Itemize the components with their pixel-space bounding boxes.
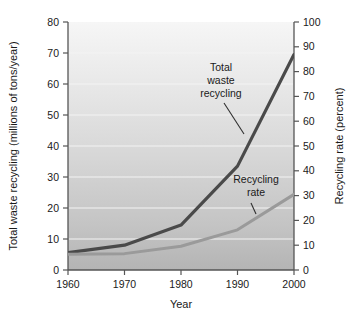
y-axis-left-tick-label: 10 xyxy=(47,233,59,245)
x-axis-tick-label: 1980 xyxy=(169,278,193,290)
y-axis-right-tick-label: 60 xyxy=(303,115,315,127)
y-axis-left-tick-label: 70 xyxy=(47,47,59,59)
y-axis-right-tick-label: 90 xyxy=(303,40,315,52)
y-axis-right: 0102030405060708090100 xyxy=(294,16,321,276)
y-axis-right-tick-label: 80 xyxy=(303,65,315,77)
y-axis-right-tick-label: 20 xyxy=(303,214,315,226)
y-axis-left-tick-label: 0 xyxy=(53,264,59,276)
y-axis-left-tick-label: 80 xyxy=(47,16,59,28)
y-axis-right-tick-label: 50 xyxy=(303,140,315,152)
annotation-recycling-rate-line1: Recycling xyxy=(233,173,279,185)
y-axis-right-tick-label: 100 xyxy=(303,16,321,28)
chart-figure: 01020304050607080 0102030405060708090100… xyxy=(0,0,356,320)
y-axis-left-tick-label: 60 xyxy=(47,78,59,90)
y-axis-left-title: Total waste recycling (millions of tons/… xyxy=(7,41,19,250)
x-axis-tick-label: 2000 xyxy=(282,278,306,290)
annotation-recycling-rate-line2: rate xyxy=(247,186,265,198)
y-axis-right-tick-label: 70 xyxy=(303,90,315,102)
y-axis-right-tick-label: 40 xyxy=(303,164,315,176)
y-axis-right-tick-label: 30 xyxy=(303,189,315,201)
y-axis-left-tick-label: 50 xyxy=(47,109,59,121)
recycling-line-chart: 01020304050607080 0102030405060708090100… xyxy=(0,0,356,320)
y-axis-right-tick-label: 0 xyxy=(303,264,309,276)
x-axis-tick-label: 1990 xyxy=(226,278,250,290)
x-axis: 19601970198019902000 xyxy=(56,270,306,290)
x-axis-tick-label: 1970 xyxy=(113,278,137,290)
y-axis-right-tick-label: 10 xyxy=(303,239,315,251)
x-axis-tick-label: 1960 xyxy=(56,278,80,290)
annotation-total-waste-line1: Total xyxy=(210,61,232,73)
y-axis-right-title: Recycling rate (percent) xyxy=(333,88,345,205)
y-axis-left-tick-label: 20 xyxy=(47,202,59,214)
annotation-total-waste-line3: recycling xyxy=(200,87,242,99)
y-axis-left: 01020304050607080 xyxy=(47,16,68,276)
x-axis-title: Year xyxy=(170,298,193,310)
annotation-total-waste-line2: waste xyxy=(206,74,235,86)
y-axis-left-tick-label: 40 xyxy=(47,140,59,152)
y-axis-left-tick-label: 30 xyxy=(47,171,59,183)
